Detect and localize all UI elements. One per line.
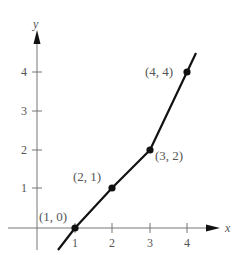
data-point [71,224,78,231]
data-point [108,184,115,191]
y-axis-label: y [32,17,39,31]
line-chart: y 1 2 3 4 x 1 2 3 4 (1, 0) (2, 1) (3, 2)… [0,0,237,255]
data-point [183,68,190,75]
point-label-2-1: (2, 1) [73,169,101,184]
y-tick-label: 4 [21,65,27,79]
x-axis-label: x [224,221,231,235]
y-tick-label: 1 [21,181,27,195]
x-tick-label: 1 [72,236,78,250]
y-axis-arrow-icon [34,30,41,44]
y-tick-label: 2 [21,143,27,157]
x-tick-label: 4 [184,236,190,250]
point-label-3-2: (3, 2) [155,148,183,163]
y-tick-label: 3 [21,104,27,118]
x-tick-label: 2 [109,236,115,250]
x-axis-arrow-icon [206,225,220,232]
x-axis: x 1 2 3 4 [8,221,231,250]
point-label-4-4: (4, 4) [145,64,173,79]
point-label-1-0: (1, 0) [39,209,67,224]
x-tick-label: 3 [147,236,153,250]
data-point [146,146,153,153]
